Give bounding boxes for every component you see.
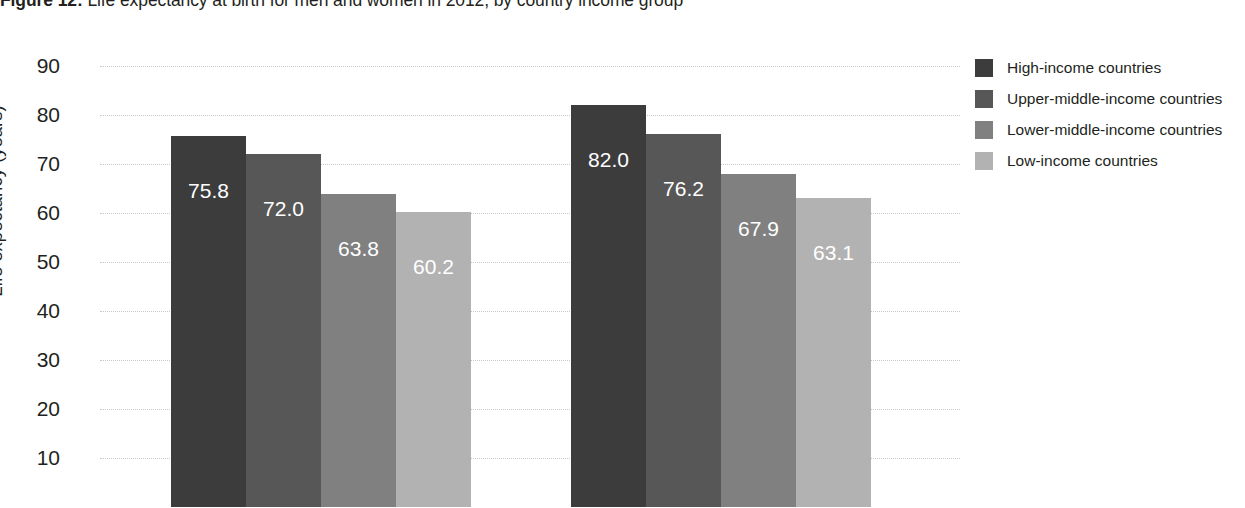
legend-swatch-icon [975, 90, 993, 108]
y-axis-tick-label: 20 [0, 398, 60, 419]
legend-item[interactable]: High-income countries [975, 52, 1240, 83]
y-axis-tick-label: 40 [0, 300, 60, 321]
legend-item[interactable]: Upper-middle-income countries [975, 83, 1240, 114]
bar-value-label: 82.0 [571, 149, 646, 170]
y-axis-tick-label: 90 [0, 55, 60, 76]
legend-item-label: High-income countries [1007, 59, 1161, 76]
legend-item[interactable]: Lower-middle-income countries [975, 114, 1240, 145]
y-axis-tick-label: 10 [0, 447, 60, 468]
legend-swatch-icon [975, 121, 993, 139]
y-axis-tick-label: 50 [0, 251, 60, 272]
legend-item[interactable]: Low-income countries [975, 145, 1240, 176]
bar: 60.2 [396, 212, 471, 507]
legend-item-label: Lower-middle-income countries [1007, 121, 1222, 138]
bar-value-label: 75.8 [171, 180, 246, 201]
y-axis-tick-label: 30 [0, 349, 60, 370]
bar-value-label: 76.2 [646, 178, 721, 199]
figure-number: Figure 12: [0, 0, 83, 10]
legend-item-label: Low-income countries [1007, 152, 1158, 169]
bar: 72.0 [246, 154, 321, 507]
y-axis-tick-label: 70 [0, 153, 60, 174]
bar: 63.8 [321, 194, 396, 507]
chart-legend: High-income countriesUpper-middle-income… [975, 52, 1240, 176]
gridline [100, 66, 960, 67]
bar: 82.0 [571, 105, 646, 507]
plot-area: 908070605040302010 75.872.063.860.282.07… [100, 56, 960, 508]
figure-caption: Life expectancy at birth for men and wom… [83, 0, 683, 10]
bar: 63.1 [796, 198, 871, 507]
bar: 76.2 [646, 134, 721, 507]
bar: 67.9 [721, 174, 796, 507]
legend-item-label: Upper-middle-income countries [1007, 90, 1222, 107]
figure-title: Figure 12: Life expectancy at birth for … [0, 0, 1000, 12]
bar-value-label: 60.2 [396, 256, 471, 277]
gridline [100, 115, 960, 116]
bar-value-label: 63.1 [796, 242, 871, 263]
bar-value-label: 63.8 [321, 238, 396, 259]
bar-value-label: 72.0 [246, 198, 321, 219]
y-axis-tick-label: 60 [0, 202, 60, 223]
bar-value-label: 67.9 [721, 218, 796, 239]
bar: 75.8 [171, 136, 246, 507]
legend-swatch-icon [975, 152, 993, 170]
legend-swatch-icon [975, 59, 993, 77]
y-axis-tick-label: 80 [0, 104, 60, 125]
